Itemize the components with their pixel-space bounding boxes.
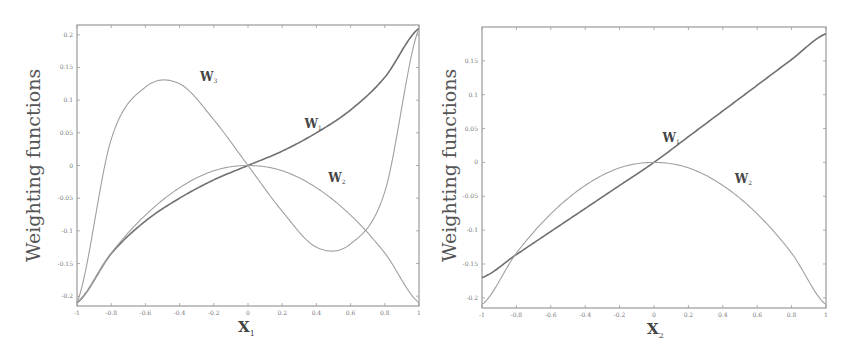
y-tick-label: -0.2	[61, 292, 73, 299]
x-tick-label: -0.8	[511, 311, 523, 318]
chart-right: -1-0.8-0.6-0.4-0.200.20.40.60.810.150.10…	[425, 0, 850, 350]
y-tick-label: 0.2	[63, 31, 73, 38]
x-tick-label: 0.2	[684, 311, 694, 318]
y-tick-label: -0.15	[463, 260, 479, 267]
y-tick-label: 0.15	[60, 63, 74, 70]
x-tick-label: 1	[824, 311, 828, 318]
y-tick-label: -0.15	[58, 260, 74, 267]
y-tick-label: 0.05	[465, 125, 479, 132]
y-tick-label: -0.1	[61, 227, 73, 234]
y-axis-label-left: Weighting functions	[22, 69, 44, 262]
x-tick-label: -0.6	[140, 309, 152, 316]
x-tick-label: 0.2	[277, 309, 287, 316]
y-tick-label: -0.05	[463, 192, 479, 199]
curve-label-w1: W1	[662, 131, 680, 145]
x-tick-label: 0.6	[346, 309, 356, 316]
x-tick-label: -0.6	[545, 311, 557, 318]
y-tick-label: -0.05	[58, 194, 74, 201]
y-tick-label: 0.1	[63, 96, 73, 103]
x-tick-label: 0.4	[312, 309, 322, 316]
y-tick-label: -0.1	[466, 226, 478, 233]
series-w2	[482, 162, 826, 304]
y-tick-label: -0.2	[466, 294, 478, 301]
y-tick-label: 0.05	[60, 129, 74, 136]
curve-label-w3: W3	[199, 70, 217, 84]
x-tick-label: 0.8	[787, 311, 797, 318]
x-axis-label-right: X2	[647, 320, 664, 340]
x-tick-label: 0	[652, 311, 656, 318]
y-tick-label: 0.15	[465, 57, 479, 64]
curve-label-w2: W2	[327, 171, 345, 185]
y-tick-label: 0	[69, 162, 73, 169]
x-tick-label: -1	[74, 309, 80, 316]
x-tick-label: 0	[246, 309, 250, 316]
x-tick-label: -1	[479, 311, 485, 318]
plot-area-left: -1-0.8-0.6-0.4-0.200.20.40.60.810.20.150…	[0, 0, 425, 350]
series-w1	[482, 34, 826, 278]
series-w2	[77, 166, 419, 303]
x-tick-label: 0.4	[718, 311, 728, 318]
plot-area-right: -1-0.8-0.6-0.4-0.200.20.40.60.810.150.10…	[425, 0, 850, 350]
y-tick-label: 0.1	[468, 91, 478, 98]
chart-left: -1-0.8-0.6-0.4-0.200.20.40.60.810.20.150…	[0, 0, 425, 350]
curve-label-w2: W2	[734, 172, 752, 186]
x-tick-label: -0.8	[105, 309, 117, 316]
x-tick-label: -0.4	[174, 309, 186, 316]
x-tick-label: -0.2	[614, 311, 626, 318]
y-tick-label: 0	[474, 158, 478, 165]
x-tick-label: -0.2	[208, 309, 220, 316]
x-tick-label: -0.4	[579, 311, 591, 318]
x-tick-label: 0.6	[752, 311, 762, 318]
series-w3	[77, 28, 419, 302]
x-axis-label-left: X1	[238, 318, 255, 338]
y-axis-label-right: Weighting functions	[438, 69, 460, 262]
x-tick-label: 0.8	[380, 309, 390, 316]
plot-frame	[482, 27, 826, 308]
x-tick-label: 1	[417, 309, 421, 316]
curve-label-w1: W1	[303, 117, 321, 131]
